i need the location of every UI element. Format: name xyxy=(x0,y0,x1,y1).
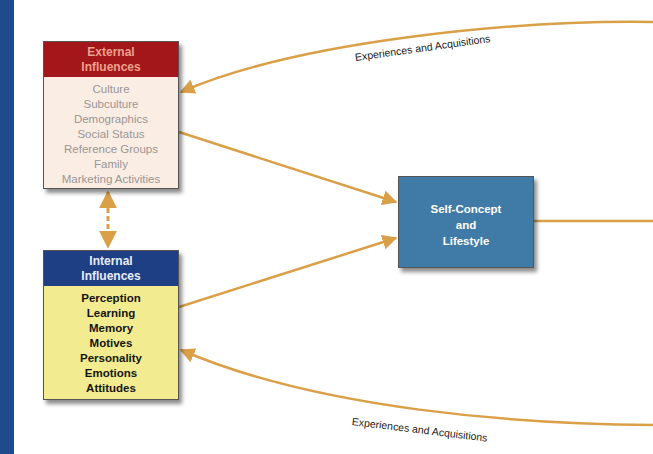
internal-to-self-arrow xyxy=(179,238,396,307)
self-concept-line1: Self-Concept xyxy=(399,201,533,217)
self-concept-line3: Lifestyle xyxy=(399,233,533,249)
internal-influences-box: Internal Influences Perception Learning … xyxy=(43,250,179,400)
self-concept-lifestyle-box: Self-Concept and Lifestyle xyxy=(398,176,534,268)
external-title-line1: External xyxy=(44,45,178,60)
list-item: Family xyxy=(44,157,178,172)
list-item: Personality xyxy=(44,351,178,366)
external-influences-list: Culture Subculture Demographics Social S… xyxy=(44,77,178,187)
list-item: Reference Groups xyxy=(44,142,178,157)
self-concept-line2: and xyxy=(399,217,533,233)
list-item: Emotions xyxy=(44,366,178,381)
list-item: Perception xyxy=(44,291,178,306)
list-item: Attitudes xyxy=(44,381,178,396)
internal-title-line2: Influences xyxy=(44,269,178,284)
internal-influences-header: Internal Influences xyxy=(44,251,178,286)
list-item: Learning xyxy=(44,306,178,321)
list-item: Motives xyxy=(44,336,178,351)
list-item: Memory xyxy=(44,321,178,336)
feedback-arrow-bottom xyxy=(181,350,653,425)
external-title-line2: Influences xyxy=(44,60,178,75)
list-item: Culture xyxy=(44,82,178,97)
internal-influences-list: Perception Learning Memory Motives Perso… xyxy=(44,286,178,396)
list-item: Demographics xyxy=(44,112,178,127)
external-influences-header: External Influences xyxy=(44,42,178,77)
internal-title-line1: Internal xyxy=(44,254,178,269)
list-item: Subculture xyxy=(44,97,178,112)
external-influences-box: External Influences Culture Subculture D… xyxy=(43,41,179,189)
feedback-arrow-top xyxy=(181,22,653,92)
list-item: Social Status xyxy=(44,127,178,142)
list-item: Marketing Activities xyxy=(44,172,178,187)
external-to-self-arrow xyxy=(179,132,396,202)
